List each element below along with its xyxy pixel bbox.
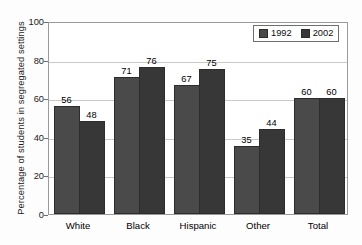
bar[interactable]	[199, 69, 225, 214]
y-tick-label: 40	[4, 133, 44, 143]
y-tick-label: 0	[4, 210, 44, 220]
legend-entry[interactable]: 2002	[301, 28, 334, 38]
legend-swatch-icon	[301, 29, 310, 38]
bar-value-label: 44	[255, 118, 289, 128]
bar-value-label: 56	[50, 95, 84, 105]
bar[interactable]	[294, 98, 320, 214]
bar-chart-figure: Percentage of students in segregated set…	[0, 0, 362, 245]
bar[interactable]	[54, 106, 80, 214]
bar[interactable]	[79, 121, 105, 214]
chart-legend: 19922002	[253, 25, 339, 42]
y-tick-label: 80	[4, 56, 44, 66]
bar-group: 6775	[174, 23, 225, 214]
legend-label: 2002	[313, 28, 334, 38]
bar[interactable]	[319, 98, 345, 214]
legend-swatch-icon	[259, 29, 268, 38]
bar[interactable]	[174, 85, 200, 214]
bar[interactable]	[139, 67, 165, 214]
legend-label: 1992	[271, 28, 292, 38]
bar-value-label: 60	[315, 87, 349, 97]
bar[interactable]	[234, 146, 260, 214]
plot-area: 56487176677535446060	[48, 22, 348, 215]
bar-group: 3544	[234, 23, 285, 214]
bar-group: 7176	[114, 23, 165, 214]
y-tick-label: 20	[4, 171, 44, 181]
x-tick-label-total: Total	[278, 220, 358, 231]
bar-value-label: 76	[135, 56, 169, 66]
bar-value-label: 48	[75, 110, 109, 120]
bar-group: 6060	[294, 23, 345, 214]
y-tick-label: 100	[4, 17, 44, 27]
legend-entry[interactable]: 1992	[259, 28, 292, 38]
y-tick-label: 60	[4, 94, 44, 104]
bar[interactable]	[114, 77, 140, 214]
bar-group: 5648	[54, 23, 105, 214]
y-tick-mark	[44, 215, 48, 216]
y-axis-title: Percentage of students in segregated set…	[16, 18, 26, 218]
bar-value-label: 75	[195, 58, 229, 68]
bar[interactable]	[259, 129, 285, 214]
